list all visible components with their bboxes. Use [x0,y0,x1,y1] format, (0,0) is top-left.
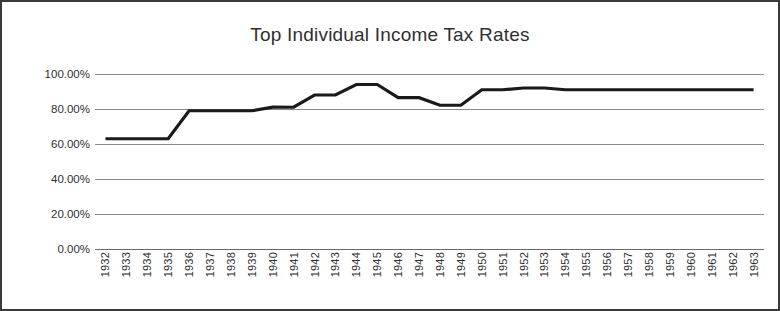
plot-area [95,74,764,249]
x-axis-tick-label: 1937 [204,252,216,277]
x-axis-tick-label: 1942 [309,252,321,277]
y-axis-tick-label: 40.00% [51,173,90,185]
x-axis-tick-label: 1949 [455,252,467,277]
x-axis-tick-label: 1941 [288,252,300,277]
y-axis-tick-label: 100.00% [45,68,90,80]
x-axis-tick-label: 1962 [727,252,739,277]
x-axis-tick-label: 1947 [413,252,425,277]
x-axis-tick-label: 1932 [99,252,111,277]
x-axis-tick-label: 1945 [371,252,383,277]
data-series-line [95,74,764,249]
x-axis-tick-label: 1943 [329,252,341,277]
x-axis-tick-label: 1935 [162,252,174,277]
x-axis-tick-label: 1956 [601,252,613,277]
x-axis-tick-label: 1948 [434,252,446,277]
x-axis-tick-label: 1958 [643,252,655,277]
x-axis-tick-label: 1954 [559,252,571,277]
x-axis-tick-label: 1959 [664,252,676,277]
x-axis-tick-label: 1950 [476,252,488,277]
y-axis-tick-label: 0.00% [57,243,90,255]
x-axis-tick-label: 1963 [748,252,760,277]
x-axis-tick-label: 1933 [120,252,132,277]
chart-container: Top Individual Income Tax Rates 0.00%20.… [0,0,780,311]
y-axis-tick-label: 80.00% [51,103,90,115]
x-axis-tick-label: 1960 [685,252,697,277]
x-axis-tick-labels: 1932193319341935193619371938193919401941… [95,252,764,308]
y-axis-tick-labels: 0.00%20.00%40.00%60.00%80.00%100.00% [12,74,90,249]
x-axis-tick-label: 1946 [392,252,404,277]
x-axis-tick-label: 1957 [622,252,634,277]
chart-title: Top Individual Income Tax Rates [2,24,778,46]
y-axis-tick-label: 20.00% [51,208,90,220]
gridline-000 [95,249,764,250]
x-axis-tick-label: 1934 [141,252,153,277]
x-axis-tick-label: 1936 [183,252,195,277]
x-axis-tick-label: 1940 [267,252,279,277]
x-axis-tick-label: 1939 [246,252,258,277]
y-axis-tick-label: 60.00% [51,138,90,150]
x-axis-tick-label: 1951 [497,252,509,277]
x-axis-tick-label: 1953 [538,252,550,277]
x-axis-tick-label: 1944 [350,252,362,277]
x-axis-tick-label: 1952 [518,252,530,277]
x-axis-tick-label: 1955 [580,252,592,277]
x-axis-tick-label: 1938 [225,252,237,277]
x-axis-tick-label: 1961 [706,252,718,277]
